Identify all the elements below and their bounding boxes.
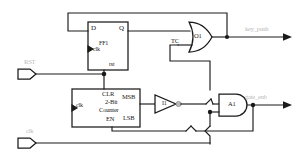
counter-lsb-label: LSB — [123, 115, 134, 122]
rst-port-shape — [18, 69, 36, 79]
clk-port-label: clk — [26, 128, 33, 135]
flipflop-name-label: FF1 — [99, 40, 108, 46]
flipflop-rst-label: rst — [109, 61, 114, 67]
schematic-canvas: D Q FF1 clk rst CLR 2-Bit Counter EN MSB… — [0, 0, 303, 162]
tc-signal-label: TC — [171, 38, 179, 45]
gate-enb-arrowhead-icon — [283, 101, 292, 109]
counter-en-label: EN — [106, 116, 114, 123]
wire-hop-inv-b — [211, 99, 213, 104]
counter-title-line2: Counter — [99, 107, 119, 114]
junction-rst — [102, 72, 107, 77]
wire-hop-fb-b — [186, 126, 191, 131]
clk-port-shape — [18, 138, 36, 148]
key-push-arrowhead-icon — [283, 33, 292, 41]
counter-clr-label: CLR — [102, 91, 114, 98]
flipflop-d-label: D — [91, 25, 96, 32]
counter-msb-label: MSB — [122, 94, 135, 101]
rst-port-label: RST — [24, 59, 35, 66]
wire-hop-fb-a — [191, 126, 196, 131]
inverter-label: I1 — [162, 100, 167, 106]
flipflop-q-label: Q — [119, 25, 124, 32]
and-gate-label: A1 — [228, 101, 236, 108]
inverter-bubble-icon — [176, 101, 181, 106]
key-push-output-label: key_push — [245, 26, 268, 33]
flipflop-clk-label: clk — [93, 46, 100, 52]
counter-clk-label: clk — [76, 102, 83, 108]
wire-hop-inv-a — [206, 99, 211, 104]
counter-title-line1: 2-Bit — [105, 99, 117, 106]
wire-tc-hop-down — [205, 126, 210, 144]
gate-enable-output-label: gate_enb — [245, 94, 267, 101]
or-gate-label: O1 — [194, 33, 202, 40]
